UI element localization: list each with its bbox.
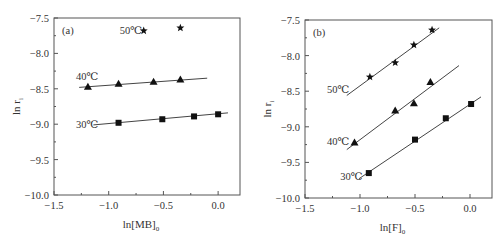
series-square: 30℃ <box>76 111 228 129</box>
y-axis-title: ln ri <box>10 98 25 115</box>
triangle-marker-icon <box>150 78 158 85</box>
star-marker-icon <box>176 24 184 32</box>
figure-canvas: −1.5−1.0−0.50.0−7.5−8.0−8.5−9.0−9.5−10.0… <box>0 0 503 246</box>
y-tick-label: −7.5 <box>30 13 49 24</box>
x-tick-label: 0.0 <box>212 200 225 211</box>
x-axis-title-main: ln[MB] <box>123 218 156 230</box>
series-label: 40℃ <box>76 71 99 82</box>
series-star: 50℃ <box>120 24 185 36</box>
square-marker-icon <box>116 120 122 126</box>
star-marker-icon <box>428 26 436 34</box>
x-tick-label: 0.0 <box>463 203 476 214</box>
square-marker-icon <box>443 115 449 121</box>
star-marker-icon <box>410 41 418 49</box>
series-label: 30℃ <box>340 171 363 182</box>
fit-line <box>79 78 207 87</box>
triangle-marker-icon <box>176 76 184 83</box>
star-marker-icon <box>366 73 374 81</box>
y-tick-label: −7.5 <box>281 15 300 26</box>
x-axis-title: ln[F]0 <box>380 221 406 236</box>
x-axis-title-sub: 0 <box>156 225 160 233</box>
series-label: 50℃ <box>327 84 350 95</box>
triangle-marker-icon <box>391 106 399 113</box>
y-tick-label: −10.0 <box>25 190 49 201</box>
y-tick-label: −8.0 <box>281 51 300 62</box>
fit-line <box>359 97 481 179</box>
y-axis-title-sub: i <box>17 98 25 100</box>
panel-label: (a) <box>62 25 74 37</box>
y-tick-label: −10.0 <box>276 193 300 204</box>
x-tick-label: −1.0 <box>99 200 118 211</box>
y-axis-title: ln ri <box>261 100 276 117</box>
panel-a-chart: −1.5−1.0−0.50.0−7.5−8.0−8.5−9.0−9.5−10.0… <box>10 13 240 233</box>
square-marker-icon <box>468 101 474 107</box>
y-tick-label: −8.0 <box>30 48 49 59</box>
triangle-marker-icon <box>115 80 123 87</box>
star-marker-icon <box>391 59 399 67</box>
square-marker-icon <box>215 111 221 117</box>
triangle-marker-icon <box>426 78 434 85</box>
square-marker-icon <box>159 116 165 122</box>
y-tick-label: −9.5 <box>281 157 300 168</box>
series-square: 30℃ <box>340 97 481 182</box>
series-triangle: 40℃ <box>76 71 207 89</box>
plot-frame <box>54 18 240 195</box>
triangle-marker-icon <box>410 99 418 106</box>
y-axis-title-main: ln r <box>10 100 22 115</box>
y-tick-label: −8.5 <box>30 84 49 95</box>
fit-line <box>347 66 459 150</box>
x-tick-label: −0.5 <box>405 203 424 214</box>
x-tick-label: −1.5 <box>44 200 63 211</box>
y-axis-title-main: ln r <box>261 102 273 117</box>
series-label: 30℃ <box>76 119 99 130</box>
square-marker-icon <box>366 170 372 176</box>
square-marker-icon <box>191 113 197 119</box>
square-marker-icon <box>412 137 418 143</box>
panel-b-chart: −1.5−1.0−0.50.0−7.5−8.0−8.5−9.0−9.5−10.0… <box>261 15 492 236</box>
panel-label: (b) <box>313 27 326 39</box>
x-axis-title-sub: 0 <box>402 228 406 236</box>
y-tick-label: −8.5 <box>281 86 300 97</box>
plot-frame <box>305 20 492 198</box>
x-tick-label: −1.0 <box>350 203 369 214</box>
y-tick-label: −9.0 <box>30 119 49 130</box>
x-axis-title: ln[MB]0 <box>123 218 160 233</box>
series-label: 40℃ <box>327 136 350 147</box>
series-label: 50℃ <box>120 25 143 36</box>
y-axis-title-sub: i <box>268 100 276 102</box>
x-axis-title-main: ln[F] <box>380 221 402 233</box>
series-star: 50℃ <box>327 26 439 96</box>
y-tick-label: −9.5 <box>30 155 49 166</box>
y-tick-label: −9.0 <box>281 122 300 133</box>
x-tick-label: −0.5 <box>154 200 173 211</box>
x-tick-label: −1.5 <box>295 203 314 214</box>
series-triangle: 40℃ <box>327 66 459 150</box>
